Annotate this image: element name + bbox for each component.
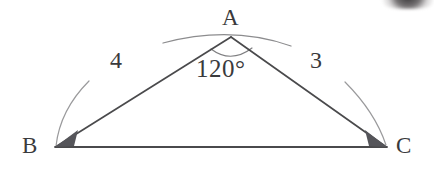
- side-length-label-ac: 3: [310, 48, 322, 72]
- side-length-label-ab: 4: [110, 48, 122, 72]
- vertex-label-c: C: [396, 134, 411, 157]
- triangle-figure: A B C 4 3 120°: [0, 0, 434, 171]
- vertex-c-construction-arc: [345, 82, 386, 145]
- triangle-svg: [0, 0, 434, 171]
- vertex-label-a: A: [222, 6, 239, 29]
- angle-measure-label-a: 120°: [196, 56, 246, 81]
- vertex-label-b: B: [22, 134, 37, 157]
- side-ac-line: [231, 37, 385, 146]
- side-ab-line: [57, 37, 231, 146]
